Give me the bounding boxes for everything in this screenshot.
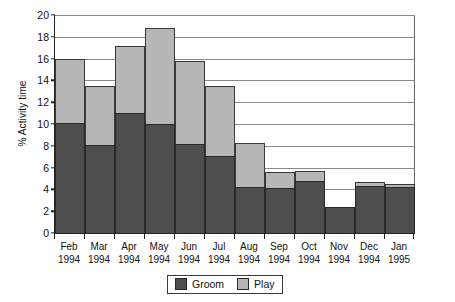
bar-segment-play xyxy=(175,61,205,144)
x-axis-label: May1994 xyxy=(144,241,174,266)
y-tick-label-6: 6 xyxy=(43,162,49,174)
y-tick-label-14: 14 xyxy=(37,74,49,86)
bar-segment-play xyxy=(205,86,235,156)
x-label-month: Apr xyxy=(114,241,144,254)
x-axis-ticks xyxy=(54,233,414,240)
bar-stack xyxy=(325,207,355,233)
legend-swatch-play-icon xyxy=(237,278,249,290)
x-tick-cell xyxy=(54,233,84,240)
bar-segment-groom xyxy=(85,145,115,233)
x-axis-label: Aug1994 xyxy=(234,241,264,266)
x-label-year: 1994 xyxy=(264,254,294,267)
bar-segment-groom xyxy=(385,187,415,233)
y-tick-label-12: 12 xyxy=(37,96,49,108)
x-axis-tick-end xyxy=(413,233,414,239)
bar-segment-play xyxy=(55,59,85,123)
x-label-month: Mar xyxy=(84,241,114,254)
y-axis-title: % Activity time xyxy=(17,44,28,184)
bar-segment-play xyxy=(85,86,115,145)
x-tick-mark xyxy=(204,233,205,239)
bar-column xyxy=(385,15,415,233)
bar-stack xyxy=(115,46,145,233)
x-axis-label: Mar1994 xyxy=(84,241,114,266)
y-tick-label-0: 0 xyxy=(43,227,49,239)
x-tick-mark xyxy=(84,233,85,239)
x-label-month: May xyxy=(144,241,174,254)
legend-swatch-groom-icon xyxy=(175,278,187,290)
stacked-bar-chart: % Activity time 02468101214161820 Feb199… xyxy=(0,0,455,302)
bar-stack xyxy=(175,61,205,233)
x-tick-mark xyxy=(174,233,175,239)
bar-stack xyxy=(355,182,385,233)
x-tick-mark xyxy=(54,233,55,239)
x-label-year: 1994 xyxy=(174,254,204,267)
bar-stack xyxy=(85,86,115,233)
bar-column xyxy=(205,15,235,233)
bar-segment-play xyxy=(115,46,145,114)
bar-segment-groom xyxy=(295,181,325,233)
chart-legend: GroomPlay xyxy=(167,275,283,294)
plot-area: 02468101214161820 xyxy=(54,15,415,234)
bar-stack xyxy=(295,171,325,233)
bar-segment-groom xyxy=(55,123,85,233)
x-label-month: Jun xyxy=(174,241,204,254)
x-tick-cell xyxy=(114,233,144,240)
bar-segment-groom xyxy=(175,144,205,233)
x-label-year: 1994 xyxy=(204,254,234,267)
x-tick-mark xyxy=(264,233,265,239)
bar-series-group xyxy=(55,15,415,233)
x-label-month: Oct xyxy=(294,241,324,254)
x-tick-mark xyxy=(114,233,115,239)
x-tick-cell xyxy=(324,233,354,240)
x-label-year: 1995 xyxy=(384,254,414,267)
bar-column xyxy=(295,15,325,233)
x-tick-mark xyxy=(384,233,385,239)
bar-stack xyxy=(265,172,295,233)
bar-column xyxy=(265,15,295,233)
bar-segment-groom xyxy=(205,156,235,233)
x-axis-label: Feb1994 xyxy=(54,241,84,266)
x-axis-label: Jun1994 xyxy=(174,241,204,266)
y-tick-label-16: 16 xyxy=(37,53,49,65)
bar-column xyxy=(325,15,355,233)
bar-segment-play xyxy=(295,171,325,181)
x-axis-label: Jan1995 xyxy=(384,241,414,266)
x-tick-cell xyxy=(264,233,294,240)
y-tick-label-10: 10 xyxy=(37,118,49,130)
bar-column xyxy=(175,15,205,233)
x-label-year: 1994 xyxy=(84,254,114,267)
x-axis-label: Nov1994 xyxy=(324,241,354,266)
legend-entry-play: Play xyxy=(237,278,274,290)
bar-stack xyxy=(385,184,415,233)
x-label-month: Nov xyxy=(324,241,354,254)
x-tick-cell xyxy=(384,233,414,240)
bar-column xyxy=(115,15,145,233)
bar-segment-groom xyxy=(115,113,145,233)
bar-stack xyxy=(205,86,235,233)
bar-segment-groom xyxy=(265,188,295,233)
x-axis-label: Jul1994 xyxy=(204,241,234,266)
x-tick-cell xyxy=(204,233,234,240)
bar-column xyxy=(235,15,265,233)
x-tick-cell xyxy=(144,233,174,240)
x-label-year: 1994 xyxy=(354,254,384,267)
y-tick-label-2: 2 xyxy=(43,205,49,217)
x-tick-cell xyxy=(294,233,324,240)
bar-segment-groom xyxy=(355,186,385,233)
bar-column xyxy=(55,15,85,233)
x-tick-cell xyxy=(234,233,264,240)
x-tick-mark xyxy=(294,233,295,239)
bar-segment-groom xyxy=(325,207,355,233)
legend-entry-groom: Groom xyxy=(175,278,224,290)
x-axis-label: Apr1994 xyxy=(114,241,144,266)
x-label-year: 1994 xyxy=(144,254,174,267)
bar-segment-play xyxy=(265,172,295,188)
x-label-month: Jan xyxy=(384,241,414,254)
x-axis-labels: Feb1994Mar1994Apr1994May1994Jun1994Jul19… xyxy=(54,241,414,266)
legend-label: Groom xyxy=(192,278,224,290)
x-label-month: Dec xyxy=(354,241,384,254)
x-axis-label: Sep1994 xyxy=(264,241,294,266)
x-label-year: 1994 xyxy=(54,254,84,267)
x-tick-cell xyxy=(354,233,384,240)
x-tick-mark xyxy=(354,233,355,239)
